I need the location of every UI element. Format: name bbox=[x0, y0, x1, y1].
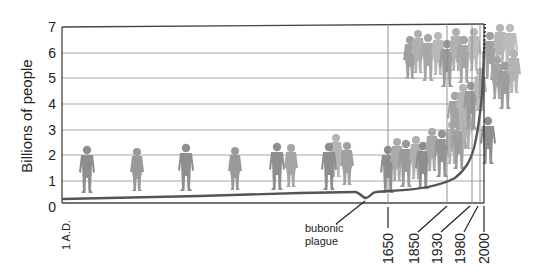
bubonic-plague-annotation: bubonic plague bbox=[305, 222, 344, 247]
svg-text:6: 6 bbox=[48, 45, 56, 61]
svg-text:7: 7 bbox=[48, 19, 56, 35]
x-tick-2000: 2000 bbox=[476, 233, 492, 264]
people-silhouettes bbox=[79, 24, 521, 193]
svg-text:1: 1 bbox=[48, 173, 56, 189]
y-axis-label: Billions of people bbox=[18, 59, 35, 172]
svg-text:4: 4 bbox=[48, 96, 56, 112]
svg-text:0: 0 bbox=[48, 199, 56, 215]
y-tick-labels: 0 1 2 3 4 5 6 7 bbox=[48, 19, 56, 215]
x-tick-leaders bbox=[336, 201, 484, 232]
svg-text:plague: plague bbox=[305, 235, 338, 247]
population-chart: 0 1 2 3 4 5 6 7 Billions of people 1 A.D… bbox=[0, 0, 539, 277]
x-tick-1930: 1930 bbox=[429, 233, 445, 264]
svg-text:2: 2 bbox=[48, 147, 56, 163]
x-tick-1650: 1650 bbox=[380, 233, 396, 264]
svg-text:bubonic: bubonic bbox=[305, 222, 344, 234]
x-tick-1850: 1850 bbox=[406, 233, 422, 264]
svg-text:3: 3 bbox=[48, 122, 56, 138]
x-tick-labels: 1 A.D. 1650 1850 1930 1980 2000 bbox=[60, 220, 492, 264]
x-tick-1980: 1980 bbox=[452, 233, 468, 264]
x-tick-1ad: 1 A.D. bbox=[60, 220, 72, 250]
svg-text:5: 5 bbox=[48, 70, 56, 86]
